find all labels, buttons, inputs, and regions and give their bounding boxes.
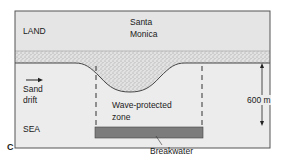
label-sand-drift-line2: drift (23, 95, 37, 105)
label-land: LAND (23, 26, 46, 36)
label-distance: 600 m (247, 95, 271, 105)
label-place-name-line2: Monica (130, 29, 157, 39)
label-breakwater: Breakwater (150, 146, 193, 156)
label-place-name-line1: Santa (130, 17, 152, 27)
label-zone-line1: Wave-protected (112, 100, 172, 110)
label-sand-drift-line1: Sand (23, 84, 43, 94)
panel-label: C (7, 142, 14, 152)
breakwater-bar (95, 127, 203, 138)
label-zone-line2: zone (112, 112, 130, 122)
label-sea: SEA (23, 124, 40, 134)
